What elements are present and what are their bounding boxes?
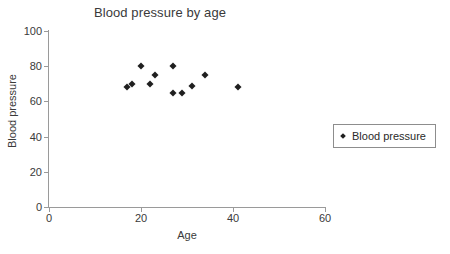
y-tick (44, 66, 48, 67)
y-axis-title: Blood pressure (6, 51, 18, 171)
chart-legend: Blood pressure (333, 124, 436, 148)
x-tick-label: 0 (29, 212, 69, 224)
y-tick (44, 31, 48, 32)
data-point (147, 80, 154, 87)
plot-area (49, 31, 325, 207)
chart-title: Blood pressure by age (0, 5, 320, 20)
legend-marker-icon (340, 133, 346, 139)
data-point (151, 71, 158, 78)
data-point (170, 63, 177, 70)
x-tick-label: 60 (305, 212, 345, 224)
scatter-chart: Blood pressure by age 020406080100 02040… (0, 0, 450, 254)
x-tick-label: 40 (213, 212, 253, 224)
data-point (137, 63, 144, 70)
y-tick (44, 101, 48, 102)
data-point (188, 82, 195, 89)
x-axis-line (48, 207, 326, 208)
data-point (202, 71, 209, 78)
y-tick (44, 172, 48, 173)
legend-label: Blood pressure (352, 130, 426, 142)
data-point (170, 89, 177, 96)
data-point (179, 89, 186, 96)
x-tick-label: 20 (121, 212, 161, 224)
y-tick-label: 100 (12, 25, 42, 37)
data-point (234, 84, 241, 91)
x-axis-title: Age (49, 229, 325, 241)
y-tick (44, 137, 48, 138)
y-tick (44, 207, 48, 208)
